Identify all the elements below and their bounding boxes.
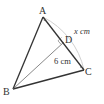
point-a-marker xyxy=(44,19,46,21)
point-c-marker xyxy=(80,66,82,68)
label-arc-length: x cm xyxy=(73,26,90,36)
label-d: D xyxy=(65,34,72,45)
label-c: C xyxy=(85,66,92,77)
label-dc-length: 6 cm xyxy=(54,56,71,66)
segment-ab xyxy=(13,17,43,89)
label-b: B xyxy=(3,86,10,97)
label-a: A xyxy=(39,5,47,16)
triangle-diagram: A B C D x cm 6 cm xyxy=(0,0,104,104)
